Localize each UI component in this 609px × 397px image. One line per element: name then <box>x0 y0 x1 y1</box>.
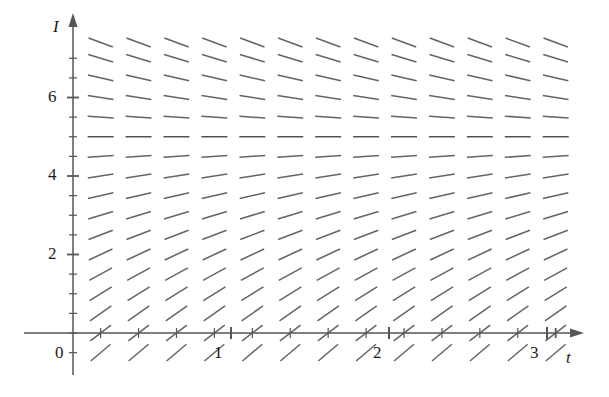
slope-segment <box>203 268 226 280</box>
slope-segment <box>164 193 189 199</box>
slope-segment <box>354 38 378 47</box>
slope-segment <box>315 116 341 118</box>
slope-segment <box>505 193 530 199</box>
slope-segment <box>164 230 188 239</box>
slope-segment <box>88 38 112 47</box>
slope-segment <box>88 116 114 118</box>
slope-segment <box>164 116 190 118</box>
x-axis-arrow-icon <box>570 329 584 338</box>
slope-segment <box>278 211 303 219</box>
slope-segment <box>128 287 150 301</box>
slope-segment <box>394 344 414 361</box>
slope-segment <box>278 75 303 81</box>
y-tick-label-2: 2 <box>48 244 57 264</box>
slope-segment <box>126 155 152 157</box>
slope-segment <box>430 268 453 280</box>
y-tick-label-6: 6 <box>48 87 57 107</box>
slope-segment <box>317 268 340 280</box>
slope-segment <box>277 96 303 100</box>
slope-segment <box>242 306 263 321</box>
slope-segment <box>430 249 454 260</box>
slope-segment <box>201 155 227 157</box>
slope-segment <box>90 287 112 301</box>
slope-segment <box>126 75 151 81</box>
slope-segment <box>393 306 414 321</box>
slope-segment <box>164 211 189 219</box>
slope-segment <box>88 174 114 178</box>
slope-segment <box>89 268 112 280</box>
x-axis-label: t <box>566 348 571 368</box>
slope-segment <box>544 230 568 239</box>
slope-segment <box>543 211 568 219</box>
slope-segment <box>468 230 492 239</box>
slope-segment <box>204 306 225 321</box>
y-axis-label: I <box>53 17 59 37</box>
slope-segment-group <box>88 38 569 361</box>
slope-segment <box>467 116 493 118</box>
slope-segment <box>543 116 569 118</box>
slope-segment <box>391 75 416 81</box>
slope-segment <box>91 344 111 361</box>
slope-segment <box>545 306 566 321</box>
slope-segment <box>430 38 454 47</box>
slope-segment <box>391 116 417 118</box>
slope-segment <box>467 96 493 100</box>
slope-segment <box>240 211 265 219</box>
slope-segment <box>467 155 493 157</box>
slope-segment <box>354 54 379 62</box>
slope-segment <box>543 96 569 100</box>
slope-segment <box>468 268 491 280</box>
slope-segment <box>278 38 302 47</box>
slope-segment <box>164 155 190 157</box>
slope-segment <box>202 38 226 47</box>
slope-segment <box>316 230 340 239</box>
slope-segment <box>543 193 568 199</box>
slope-segment <box>201 116 227 118</box>
slope-segment <box>354 230 378 239</box>
slope-segment <box>355 306 376 321</box>
slope-segment <box>467 193 492 199</box>
slope-segment <box>278 54 303 62</box>
slope-segment <box>429 193 454 199</box>
slope-segment <box>317 306 338 321</box>
slope-segment <box>126 116 152 118</box>
slope-segment <box>353 96 379 100</box>
slope-segment <box>543 174 569 178</box>
slope-segment <box>129 344 149 361</box>
slope-segment <box>88 193 113 199</box>
slope-segment <box>167 344 187 361</box>
slope-segment <box>506 230 530 239</box>
slope-segment <box>545 287 567 301</box>
slope-segment <box>353 193 378 199</box>
slope-segment <box>506 268 529 280</box>
slope-segment <box>202 96 228 100</box>
slope-segment <box>355 287 377 301</box>
slope-segment <box>240 54 265 62</box>
slope-segment <box>90 306 111 321</box>
slope-segment <box>278 249 302 260</box>
slope-segment <box>279 287 301 301</box>
slope-segment <box>429 174 455 178</box>
slope-segment <box>202 211 227 219</box>
slope-segment <box>202 75 227 81</box>
slope-segment <box>392 38 416 47</box>
x-tick-label-0: 0 <box>55 343 64 363</box>
slope-segment <box>392 230 416 239</box>
slope-segment <box>507 306 528 321</box>
slope-segment <box>429 155 455 157</box>
slope-segment <box>88 75 113 81</box>
slope-segment <box>126 230 150 239</box>
slope-segment <box>469 306 490 321</box>
slope-segment <box>202 193 227 199</box>
slope-segment <box>277 155 303 157</box>
slope-segment <box>278 230 302 239</box>
slope-segment <box>544 249 568 260</box>
slope-segment <box>164 174 190 178</box>
slope-segment <box>203 287 225 301</box>
slope-segment <box>393 287 415 301</box>
slope-field-canvas <box>0 0 609 397</box>
slope-segment <box>239 96 265 100</box>
slope-segment <box>430 211 455 219</box>
slope-segment <box>429 96 455 100</box>
slope-segment <box>544 268 567 280</box>
